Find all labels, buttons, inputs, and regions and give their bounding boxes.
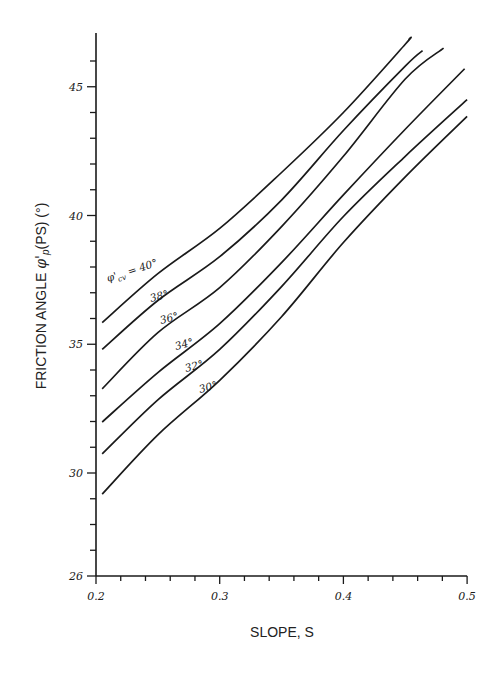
y-axis-title-main: FRICTION ANGLE (33, 269, 49, 390)
axis-tick-labels: 26303540450.20.30.40.5 (68, 81, 476, 603)
y-tick-label: 30 (69, 467, 83, 480)
y-tick-label: 35 (69, 338, 83, 351)
curve-label-38: 38° (148, 288, 169, 304)
x-tick-label: 0.5 (458, 590, 476, 603)
y-axis-title: FRICTION ANGLE φ'p(PS) (°) (33, 203, 51, 390)
curve-phi-cv-40 (102, 37, 411, 322)
curve-phi-cv-30 (102, 116, 467, 494)
y-axis-title-symbol: φ' (33, 255, 49, 269)
x-tick-label: 0.3 (211, 590, 229, 603)
curve-label-30: 30° (197, 379, 218, 395)
curve-phi-cv-32 (102, 100, 467, 454)
x-tick-label: 0.2 (87, 590, 105, 603)
x-axis-title: SLOPE, S (250, 624, 314, 640)
curve-label-34: 34° (173, 336, 194, 352)
curve-phi-cv-34 (102, 69, 464, 422)
curve-labels: φ'cv = 40°38°36°34°32°30° (105, 256, 219, 395)
y-tick-label: 45 (68, 81, 83, 94)
y-tick-label: 26 (68, 570, 83, 583)
curve-phi-cv-36 (102, 48, 443, 389)
curve-label-40: φ'cv = 40° (105, 256, 160, 287)
y-tick-label: 40 (68, 210, 83, 223)
y-axis-title-tail: (PS) (°) (33, 203, 49, 250)
curve-label-36: 36° (158, 310, 179, 326)
friction-angle-chart: 26303540450.20.30.40.5 φ'cv = 40°38°36°3… (0, 0, 503, 675)
curve-phi-cv-38 (102, 51, 422, 350)
curve-label-32: 32° (183, 358, 204, 374)
x-tick-label: 0.4 (335, 590, 353, 603)
